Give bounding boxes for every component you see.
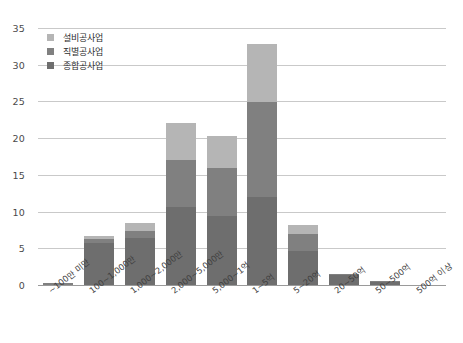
bar-segment [247,197,277,285]
bar-segment [166,160,196,207]
legend-swatch-icon [47,62,54,69]
bar-segment [125,223,155,231]
y-axis-tick-label: 0 [0,280,25,291]
y-axis-tick-label: 10 [0,206,25,217]
legend-item: 종합공사업 [47,59,104,71]
bar-segment [288,225,318,235]
legend-item-label: 설비공사업 [63,31,104,44]
chart-legend: 설비공사업직별공사업종합공사업 [47,31,104,71]
y-axis-tick-label: 35 [0,23,25,34]
x-axis-labels: ~100만 미만100~1,000만1,000~2,000만2,000~5,00… [38,286,446,343]
bar-segment [207,168,237,216]
bar-segment [288,234,318,251]
bar-segment [125,231,155,238]
bar-segment [166,123,196,160]
y-axis-tick-label: 5 [0,243,25,254]
legend-item: 직별공사업 [47,45,104,57]
bar-segment [247,102,277,197]
bar-segment [84,236,114,239]
y-axis-tick-label: 30 [0,59,25,70]
legend-swatch-icon [47,48,54,55]
bar-segment [247,44,277,102]
legend-item-label: 직별공사업 [63,45,104,58]
y-axis-tick-label: 15 [0,169,25,180]
y-axis-tick-label: 20 [0,133,25,144]
stacked-bar-chart: 05101520253035 ~100만 미만100~1,000만1,000~2… [0,0,463,343]
y-axis-tick-label: 25 [0,96,25,107]
bar-group [247,44,277,285]
legend-swatch-icon [47,34,54,41]
bar-segment [207,136,237,168]
bar-segment [84,239,114,243]
legend-item-label: 종합공사업 [63,59,104,72]
legend-item: 설비공사업 [47,31,104,43]
